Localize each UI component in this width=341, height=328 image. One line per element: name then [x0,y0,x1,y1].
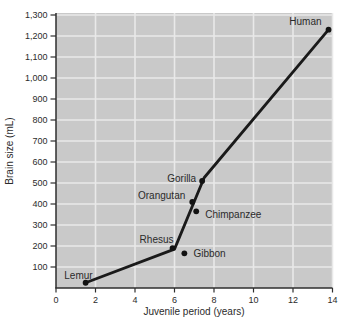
data-point-human [326,27,332,33]
x-tick-label: 8 [211,295,216,305]
y-tick-label: 100 [32,262,47,272]
x-tick-label: 14 [327,295,337,305]
y-tick-label: 900 [32,94,47,104]
data-point-chimpanzee [193,208,199,214]
y-axis-title: Brain size (mL) [4,117,15,184]
point-label-orangutan: Orangutan [138,190,185,201]
x-tick-label: 2 [93,295,98,305]
point-label-lemur: Lemur [64,270,93,281]
data-point-rhesus [170,245,176,251]
point-label-rhesus: Rhesus [140,234,174,245]
point-label-human: Human [289,16,321,27]
y-tick-label: 400 [32,199,47,209]
y-tick-label: 300 [32,220,47,230]
x-tick-label: 6 [172,295,177,305]
chart-canvas: 1002003004005006007008009001,0001,1001,2… [0,0,341,328]
data-point-gibbon [181,250,187,256]
point-label-chimpanzee: Chimpanzee [205,209,262,220]
y-tick-label: 200 [32,241,47,251]
y-tick-label: 1,300 [25,10,48,20]
y-tick-label: 1,100 [25,52,48,62]
brain-size-vs-juvenile-period-chart: 1002003004005006007008009001,0001,1001,2… [0,0,341,328]
x-tick-label: 4 [132,295,137,305]
x-tick-label: 12 [288,295,298,305]
data-point-gorilla [199,178,205,184]
x-tick-label: 10 [248,295,258,305]
y-tick-label: 700 [32,136,47,146]
data-point-orangutan [189,199,195,205]
y-tick-label: 1,000 [25,73,48,83]
point-label-gibbon: Gibbon [193,248,225,259]
x-tick-label: 0 [53,295,58,305]
y-tick-label: 800 [32,115,47,125]
point-label-gorilla: Gorilla [167,173,196,184]
y-tick-label: 500 [32,178,47,188]
y-tick-label: 600 [32,157,47,167]
x-axis-title: Juvenile period (years) [143,306,244,317]
y-tick-label: 1,200 [25,31,48,41]
